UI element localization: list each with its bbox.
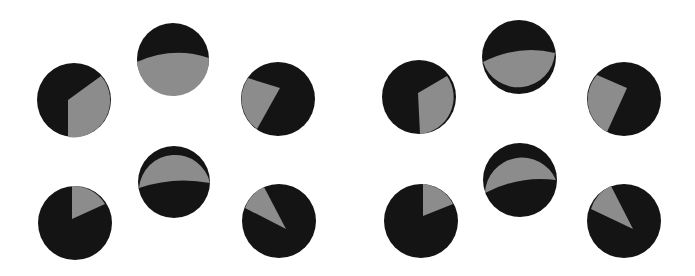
disc-bottom-right (242, 184, 316, 258)
disc-bottom-left (384, 184, 458, 258)
disc-figure (0, 0, 695, 276)
disc-top-left (37, 63, 111, 137)
disc-top-center (482, 20, 556, 94)
disc-top-right (587, 62, 661, 136)
disc-dark-region (384, 184, 458, 258)
figure-stage (0, 0, 695, 276)
disc-bottom-right (587, 184, 661, 258)
disc-bottom-left (38, 186, 112, 260)
disc-top-center (137, 23, 209, 96)
disc-bottom-center (483, 143, 557, 217)
disc-bottom-center (138, 146, 210, 218)
disc-top-right (241, 62, 315, 136)
disc-top-left (382, 60, 456, 134)
